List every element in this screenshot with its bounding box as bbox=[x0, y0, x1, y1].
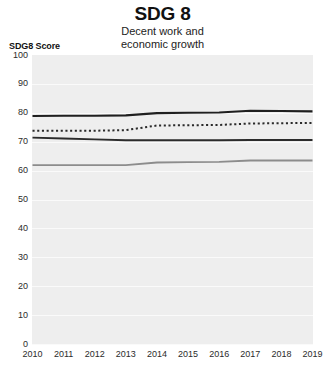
x-tick-label: 2014 bbox=[142, 349, 172, 359]
x-tick-label: 2010 bbox=[18, 349, 48, 359]
x-tick-label: 2018 bbox=[266, 349, 296, 359]
y-tick-label: 40 bbox=[2, 224, 28, 233]
x-tick-label: 2013 bbox=[111, 349, 141, 359]
x-tick-label: 2011 bbox=[49, 349, 79, 359]
x-tick-label: 2015 bbox=[173, 349, 203, 359]
y-tick-label: 20 bbox=[2, 282, 28, 291]
y-tick-label: 0 bbox=[2, 340, 28, 349]
y-tick-label: 10 bbox=[2, 311, 28, 320]
y-tick-label: 60 bbox=[2, 166, 28, 175]
y-axis-ticks: 1009080706050403020100 bbox=[0, 0, 28, 378]
x-tick-label: 2016 bbox=[204, 349, 234, 359]
y-tick-label: 50 bbox=[2, 195, 28, 204]
y-tick-label: 100 bbox=[2, 51, 28, 60]
x-tick-label: 2019 bbox=[298, 349, 325, 359]
plot-wrapper bbox=[0, 0, 325, 378]
x-tick-label: 2012 bbox=[80, 349, 110, 359]
series-line-series-dotted-dark bbox=[33, 123, 313, 131]
series-line-series-middle-solid-dark bbox=[33, 138, 313, 141]
x-tick-label: 2017 bbox=[235, 349, 265, 359]
series-line-series-bottom-solid-gray bbox=[33, 160, 313, 165]
y-tick-label: 80 bbox=[2, 108, 28, 117]
sdg8-chart: SDG 8 Decent work and economic growth SD… bbox=[0, 0, 325, 378]
x-axis-ticks: 2010201120122013201420152016201720182019 bbox=[0, 349, 325, 365]
y-tick-label: 70 bbox=[2, 137, 28, 146]
gridline bbox=[32, 344, 313, 345]
series-layer bbox=[32, 55, 313, 344]
y-tick-label: 90 bbox=[2, 79, 28, 88]
series-line-series-top-solid-dark bbox=[33, 111, 313, 116]
y-tick-label: 30 bbox=[2, 253, 28, 262]
